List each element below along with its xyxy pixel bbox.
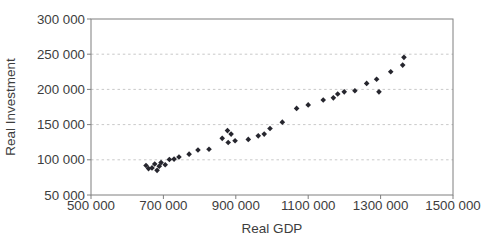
- data-point: [320, 97, 326, 103]
- data-point: [176, 154, 182, 160]
- data-point: [225, 140, 231, 146]
- data-point: [232, 138, 238, 144]
- data-point: [206, 146, 212, 152]
- data-point: [280, 119, 286, 125]
- data-point: [294, 106, 300, 112]
- data-point: [219, 136, 225, 142]
- y-tick-label: 100 000: [37, 152, 85, 167]
- plot-border: [91, 19, 453, 195]
- x-tick-label: 1300 000: [353, 198, 408, 213]
- x-tick-label: 1500 000: [425, 198, 480, 213]
- data-point: [400, 62, 406, 68]
- data-point: [374, 76, 380, 82]
- data-point: [305, 102, 311, 108]
- data-point: [388, 69, 394, 75]
- x-axis-title: Real GDP: [242, 221, 303, 236]
- data-point: [267, 126, 273, 132]
- y-tick-label: 200 000: [37, 82, 85, 97]
- y-tick-label: 300 000: [37, 12, 85, 27]
- data-point: [261, 131, 267, 137]
- data-point: [228, 131, 234, 137]
- x-tick-label: 1100 000: [281, 198, 335, 213]
- data-point: [171, 156, 177, 162]
- y-axis-title: Real Investment: [3, 58, 18, 156]
- data-point: [167, 157, 173, 163]
- data-point: [352, 88, 358, 94]
- data-point: [341, 89, 347, 95]
- data-point: [331, 95, 337, 101]
- y-tick-label: 250 000: [37, 47, 85, 62]
- scatter-chart: 50 000100 000150 000200 000250 000300 00…: [0, 0, 488, 242]
- data-point: [376, 89, 382, 95]
- data-point: [186, 151, 192, 157]
- data-point: [255, 133, 261, 139]
- plot-svg: 50 000100 000150 000200 000250 000300 00…: [0, 0, 488, 242]
- data-point: [225, 128, 231, 134]
- data-point: [195, 147, 201, 153]
- x-tick-label: 900 000: [212, 198, 260, 213]
- y-tick-label: 150 000: [37, 117, 85, 132]
- data-point: [364, 81, 370, 87]
- x-tick-label: 500 000: [67, 198, 115, 213]
- data-point: [401, 55, 407, 61]
- data-point: [335, 91, 341, 97]
- data-point: [245, 137, 251, 143]
- x-tick-label: 700 000: [139, 198, 187, 213]
